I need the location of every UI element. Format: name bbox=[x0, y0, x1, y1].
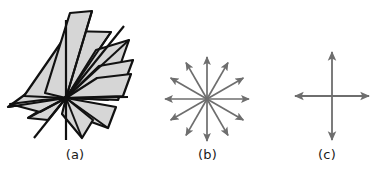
panel-a-caption: (a) bbox=[0, 148, 150, 161]
figure-container: (a) (b) bbox=[0, 0, 389, 178]
radial-arrows-diagram bbox=[150, 0, 265, 148]
panel-b: (b) bbox=[150, 0, 265, 178]
radial-arrow-group bbox=[165, 57, 249, 141]
cross-arrows-diagram bbox=[265, 0, 389, 148]
pencil-of-planes-diagram bbox=[0, 0, 150, 148]
plane-edge-line bbox=[66, 97, 128, 98]
panel-a: (a) bbox=[0, 0, 150, 178]
cross-arrow-group bbox=[295, 52, 369, 140]
plane-group bbox=[8, 11, 133, 138]
panel-c-caption: (c) bbox=[265, 148, 389, 161]
panel-c: (c) bbox=[265, 0, 389, 178]
panel-b-caption: (b) bbox=[150, 148, 265, 161]
common-point bbox=[63, 95, 68, 100]
